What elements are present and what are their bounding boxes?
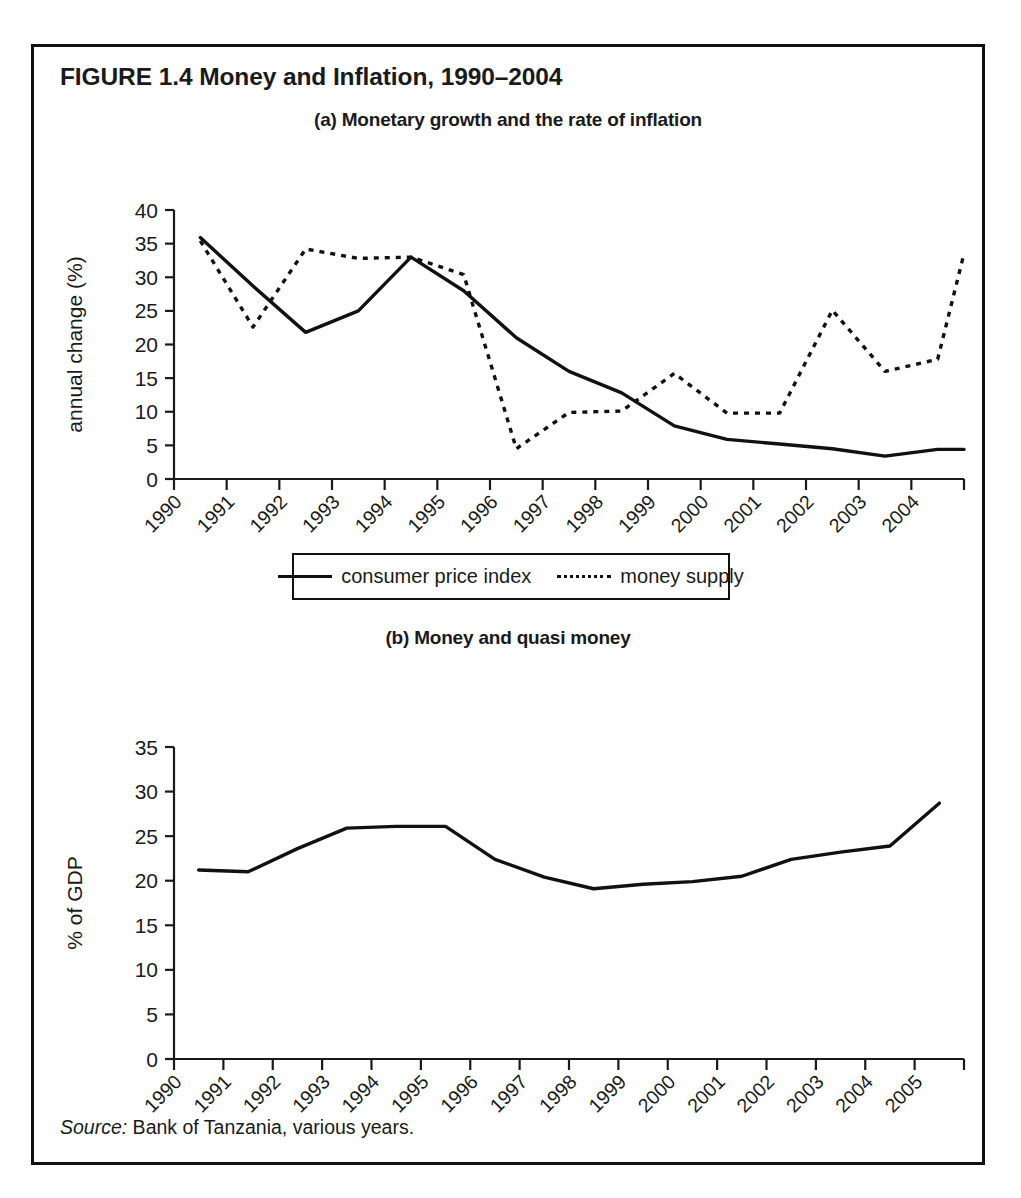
- svg-text:30: 30: [135, 780, 158, 803]
- svg-text:1991: 1991: [192, 490, 238, 536]
- svg-text:1996: 1996: [436, 1070, 482, 1116]
- svg-text:15: 15: [135, 914, 158, 937]
- svg-text:1992: 1992: [238, 1070, 284, 1116]
- svg-text:1992: 1992: [245, 490, 291, 536]
- source-text: Bank of Tanzania, various years.: [127, 1116, 414, 1138]
- solid-line-swatch-icon: [278, 575, 332, 578]
- legend-item-consumer-price-index: consumer price index: [278, 565, 531, 588]
- figure-title: FIGURE 1.4 Money and Inflation, 1990–200…: [60, 63, 562, 91]
- svg-text:40: 40: [135, 199, 158, 222]
- svg-text:1995: 1995: [403, 490, 449, 536]
- svg-text:1995: 1995: [386, 1070, 432, 1116]
- svg-text:2000: 2000: [666, 490, 712, 536]
- svg-text:25: 25: [135, 825, 158, 848]
- svg-text:1998: 1998: [535, 1070, 581, 1116]
- svg-text:1990: 1990: [140, 1070, 186, 1116]
- svg-text:2004: 2004: [831, 1070, 877, 1116]
- panel-b-title: (b) Money and quasi money: [34, 627, 982, 649]
- svg-text:1998: 1998: [561, 490, 607, 536]
- svg-text:1994: 1994: [350, 490, 396, 536]
- svg-text:1993: 1993: [288, 1070, 334, 1116]
- panel-b-chart: 0510152025303519901991199219931994199519…: [34, 647, 988, 1117]
- svg-text:2001: 2001: [719, 490, 765, 536]
- legend-item-money-supply: money supply: [557, 565, 743, 588]
- svg-text:1996: 1996: [456, 490, 502, 536]
- svg-text:0: 0: [146, 468, 158, 491]
- svg-text:2003: 2003: [781, 1070, 827, 1116]
- svg-text:1997: 1997: [508, 490, 554, 536]
- svg-text:2004: 2004: [877, 490, 923, 536]
- svg-text:5: 5: [146, 1003, 158, 1026]
- svg-text:10: 10: [135, 958, 158, 981]
- svg-text:1993: 1993: [298, 490, 344, 536]
- legend-label-consumer-price-index: consumer price index: [341, 565, 531, 588]
- legend-label-money-supply: money supply: [620, 565, 743, 588]
- svg-text:2002: 2002: [772, 490, 818, 536]
- svg-text:1999: 1999: [614, 490, 660, 536]
- svg-text:25: 25: [135, 299, 158, 322]
- svg-text:1997: 1997: [485, 1070, 531, 1116]
- figure-frame: FIGURE 1.4 Money and Inflation, 1990–200…: [31, 44, 985, 1165]
- svg-text:10: 10: [135, 400, 158, 423]
- svg-text:2003: 2003: [824, 490, 870, 536]
- svg-text:0: 0: [146, 1048, 158, 1071]
- source-label: Source:: [60, 1116, 127, 1138]
- svg-text:1994: 1994: [337, 1070, 383, 1116]
- svg-text:35: 35: [135, 232, 158, 255]
- svg-text:35: 35: [135, 736, 158, 759]
- svg-text:30: 30: [135, 266, 158, 289]
- panel-a-chart: 0510152025303540199019911992199319941995…: [34, 127, 988, 597]
- svg-text:5: 5: [146, 434, 158, 457]
- svg-text:1991: 1991: [189, 1070, 235, 1116]
- svg-text:2000: 2000: [633, 1070, 679, 1116]
- svg-text:2005: 2005: [880, 1070, 926, 1116]
- svg-text:1990: 1990: [140, 490, 186, 536]
- svg-text:20: 20: [135, 333, 158, 356]
- svg-text:2001: 2001: [683, 1070, 729, 1116]
- source-note: Source: Bank of Tanzania, various years.: [60, 1116, 414, 1139]
- svg-text:20: 20: [135, 869, 158, 892]
- chart-legend: consumer price index money supply: [292, 553, 730, 600]
- svg-text:annual change (%): annual change (%): [63, 256, 86, 432]
- svg-text:1999: 1999: [584, 1070, 630, 1116]
- svg-text:2002: 2002: [732, 1070, 778, 1116]
- svg-text:% of GDP: % of GDP: [63, 856, 86, 949]
- svg-text:15: 15: [135, 367, 158, 390]
- dotted-line-swatch-icon: [557, 575, 611, 578]
